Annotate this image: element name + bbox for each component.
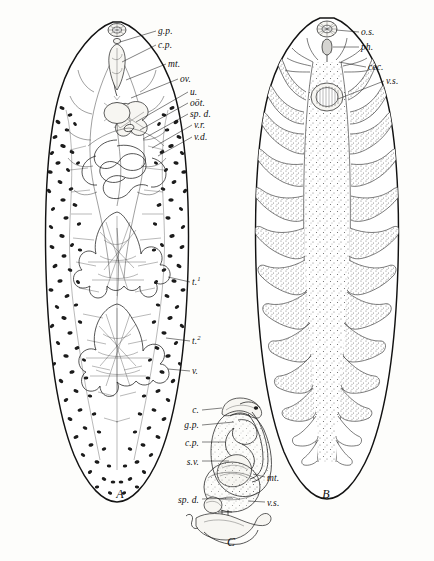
ventral-sucker-b: [311, 83, 343, 111]
label-vs-c: v.s.: [267, 498, 279, 508]
label-vs-b: v.s.: [386, 76, 398, 86]
label-sv-c: s.v.: [187, 457, 199, 467]
label-vr-a: v.r.: [194, 120, 205, 130]
label-cp-a: c.p.: [158, 40, 172, 50]
pharynx: [322, 39, 332, 55]
figure-letter-b: B: [322, 487, 330, 501]
figure-letter-c: C: [227, 535, 236, 549]
label-os-b: o.s.: [361, 27, 375, 37]
label-ph-b: ph.: [360, 42, 373, 52]
leader-c-c: [202, 408, 222, 410]
plate-canvas: g.p. c.p. mt. ov. u. oöt. sp. d. v.r. v.…: [0, 0, 434, 561]
label-spd-c: sp. d.: [178, 495, 199, 505]
figure-b-group: [253, 18, 401, 499]
label-cec-b: cec.: [368, 62, 383, 72]
figure-letter-a: A: [115, 487, 124, 501]
label-u-a: u.: [190, 87, 197, 97]
label-spd-a: sp. d.: [190, 109, 211, 119]
label-t1-a: t.1: [192, 275, 201, 287]
label-t2-a: t.2: [192, 334, 201, 346]
label-c-c: c.: [192, 405, 199, 415]
label-gp-c: g.p.: [184, 420, 199, 430]
genital-pore-a: [113, 38, 120, 43]
label-mt-a: mt.: [168, 59, 180, 69]
figure-a-group: [46, 22, 189, 502]
anatomical-plate: g.p. c.p. mt. ov. u. oöt. sp. d. v.r. v.…: [0, 0, 434, 561]
label-gp-a: g.p.: [158, 26, 173, 36]
label-cp-c: c.p.: [185, 438, 199, 448]
label-v-a: v.: [192, 366, 198, 376]
oral-sucker-b: [317, 21, 337, 37]
label-ov-a: ov.: [180, 74, 191, 84]
oral-sucker-a: [108, 24, 126, 38]
sperm-duct-bulb: [204, 497, 222, 513]
ventral-sucker-a: [104, 103, 130, 124]
label-oot-a: oöt.: [190, 98, 205, 108]
label-mt-c: mt.: [267, 473, 279, 483]
label-vd-a: v.d.: [194, 132, 207, 142]
